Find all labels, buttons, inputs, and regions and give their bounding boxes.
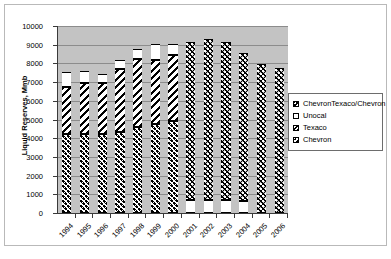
x-tick-mark [110,214,111,218]
chevron-swatch-icon [293,137,299,143]
bar-segment [168,55,177,121]
bar-segment [239,53,248,201]
x-tick-mark [252,214,253,218]
y-tick-label: 8000 [1,59,43,68]
bar-column [80,26,89,213]
unocal-swatch-icon [293,113,299,119]
x-tick-mark [145,214,146,218]
bar-segment [221,42,230,200]
bar-segment [133,127,142,213]
x-tick-mark [216,214,217,218]
bar-column [221,26,230,213]
bar-segment [275,68,284,213]
bar-column [186,26,195,213]
x-tick-mark [287,214,288,218]
legend-item-label: Chevron [303,136,331,144]
y-tick-label: 5000 [1,115,43,124]
plot-area [57,26,288,214]
bar-column [151,26,160,213]
bar-segment [151,60,160,125]
bar-segment [204,200,213,213]
bar-column [239,26,248,213]
bar-segment [186,200,195,213]
bar-segment [80,71,89,83]
bar-segment [98,74,107,83]
legend-item[interactable]: Texaco [293,122,379,134]
chart-figure: Liquid Reserves, Mmb 0100020003000400050… [0,0,391,259]
chart-frame: Liquid Reserves, Mmb 0100020003000400050… [4,4,387,246]
legend-item[interactable]: Chevron [293,134,379,146]
bar-segment [80,83,89,133]
bar-segment [62,87,71,135]
bar-segment [98,83,107,133]
y-tick-label: 3000 [1,152,43,161]
bar-column [115,26,124,213]
y-tick-label: 9000 [1,40,43,49]
bar-segment [168,121,177,213]
y-tick-label: 1000 [1,190,43,199]
chart-legend: ChevronTexaco/ChevronUnocalTexacoChevron [288,93,383,151]
y-tick-label: 4000 [1,134,43,143]
texaco-swatch-icon [293,125,299,131]
x-tick-mark [163,214,164,218]
y-tick-label: 10000 [1,22,43,31]
bar-segment [133,59,142,127]
x-tick-mark [199,214,200,218]
x-tick-mark [75,214,76,218]
bar-segment [151,44,160,60]
bar-segment [151,124,160,213]
bar-segment [62,134,71,213]
x-tick-mark [269,214,270,218]
bar-column [168,26,177,213]
bar-segment [204,39,213,200]
x-tick-mark [234,214,235,218]
y-tick-label: 7000 [1,78,43,87]
x-tick-mark [128,214,129,218]
bar-column [257,26,266,213]
bar-segment [133,49,142,58]
bar-segment [115,132,124,213]
legend-item[interactable]: Unocal [293,110,379,122]
bar-segment [168,44,177,55]
y-tick-label: 2000 [1,171,43,180]
bar-segment [115,69,124,132]
bar-column [275,26,284,213]
bar-segment [62,72,71,87]
bar-segment [80,134,89,213]
legend-item-label: Texaco [303,124,327,132]
x-tick-mark [181,214,182,218]
legend-item[interactable]: ChevronTexaco/Chevron [293,98,379,110]
y-tick-label: 6000 [1,96,43,105]
bar-segment [239,201,248,213]
x-tick-mark [92,214,93,218]
bar-column [98,26,107,213]
bar-column [62,26,71,213]
legend-item-label: ChevronTexaco/Chevron [303,100,386,108]
bar-segment [98,134,107,213]
bar-segment [115,60,124,69]
bar-segment [257,64,266,213]
bar-column [204,26,213,213]
y-tick-label: 0 [1,209,43,218]
ctc-swatch-icon [293,101,299,107]
bar-segment [221,200,230,213]
legend-item-label: Unocal [303,112,326,120]
bar-column [133,26,142,213]
bar-segment [186,42,195,200]
